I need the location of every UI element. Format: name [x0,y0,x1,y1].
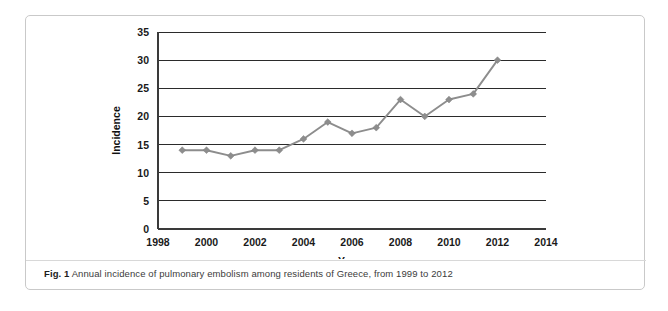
figure-caption-text: Fig. 1 Annual incidence of pulmonary emb… [44,268,453,279]
x-tick-label: 2004 [292,236,316,248]
y-tick-label: 5 [143,195,149,207]
x-axis-title: Years [338,255,366,259]
y-tick-label: 15 [137,139,149,151]
x-tick-label: 2002 [243,236,267,248]
figure-caption: Fig. 1 Annual incidence of pulmonary emb… [26,260,646,290]
x-tick-label: 2012 [486,236,510,248]
y-tick-label: 25 [137,82,149,94]
data-point-marker [203,147,210,154]
data-point-marker [349,130,356,137]
incidence-line-chart: 05101520253035 1998200020022004200620082… [26,16,646,259]
x-tick-label: 2000 [195,236,219,248]
data-point-marker [276,147,283,154]
y-tick-label: 20 [137,110,149,122]
incidence-series-line [182,60,497,156]
x-tick-label: 2006 [340,236,364,248]
gridlines-group [158,32,546,201]
data-point-marker [252,147,259,154]
x-tick-label: 1998 [146,236,170,248]
x-axis-tick-labels: 199820002002200420062008201020122014 [146,236,558,248]
data-point-marker [227,152,234,159]
y-tick-label: 10 [137,167,149,179]
y-tick-label: 35 [137,26,149,38]
figure-card: 05101520253035 1998200020022004200620082… [25,15,645,290]
figure-caption-body: Annual incidence of pulmonary embolism a… [72,268,453,279]
x-tick-label: 2010 [437,236,461,248]
data-point-marker [179,147,186,154]
x-tick-label: 2014 [534,236,558,248]
chart-region: 05101520253035 1998200020022004200620082… [26,16,646,259]
y-axis-tick-labels: 05101520253035 [137,26,149,235]
figure-caption-label: Fig. 1 [44,268,69,279]
y-tick-label: 30 [137,54,149,66]
incidence-series-markers [179,57,501,159]
y-tick-label: 0 [143,223,149,235]
y-axis-title: Incidence [110,106,122,155]
x-tick-label: 2008 [389,236,413,248]
